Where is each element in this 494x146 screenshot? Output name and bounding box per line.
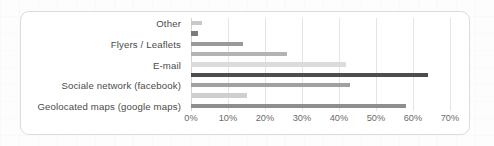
bar-row xyxy=(191,28,450,38)
bar-series xyxy=(191,18,450,111)
bar-row xyxy=(191,80,450,90)
y-axis-label-3: Sociale network (facebook) xyxy=(61,80,181,91)
y-axis-label-2: E-mail xyxy=(153,59,181,70)
bar xyxy=(191,31,198,36)
y-axis-label-0: Other xyxy=(156,18,181,29)
x-tick-label-10: 10% xyxy=(219,113,238,123)
bar xyxy=(191,93,247,98)
x-tick-label-20: 20% xyxy=(256,113,275,123)
x-tick-label-50: 50% xyxy=(367,113,386,123)
x-tick-label-70: 70% xyxy=(441,113,460,123)
bar-row xyxy=(191,59,450,69)
x-tick-label-30: 30% xyxy=(293,113,312,123)
plot-area xyxy=(191,18,450,111)
bar xyxy=(191,83,350,88)
bar-row xyxy=(191,70,450,80)
chart-card: OtherFlyers / LeafletsE-mailSociale netw… xyxy=(20,11,470,135)
y-axis-label-4: Geolocated maps (google maps) xyxy=(37,100,181,111)
y-axis-label-1: Flyers / Leaflets xyxy=(111,38,181,49)
bar xyxy=(191,21,202,26)
bar xyxy=(191,52,287,57)
bar-row xyxy=(191,101,450,111)
bar-row xyxy=(191,49,450,59)
bar-row xyxy=(191,90,450,100)
bar xyxy=(191,104,406,109)
x-tick-label-0: 0% xyxy=(184,113,197,123)
page-root: OtherFlyers / LeafletsE-mailSociale netw… xyxy=(0,0,494,146)
bar xyxy=(191,62,346,67)
gridline-70 xyxy=(450,18,451,111)
bar xyxy=(191,42,243,47)
bar-row xyxy=(191,18,450,28)
x-axis-tick-labels: 0%10%20%30%40%50%60%70% xyxy=(191,113,450,129)
y-axis-category-labels: OtherFlyers / LeafletsE-mailSociale netw… xyxy=(21,18,187,111)
x-tick-label-40: 40% xyxy=(330,113,349,123)
bar-row xyxy=(191,39,450,49)
bar xyxy=(191,73,428,78)
x-tick-label-60: 60% xyxy=(404,113,423,123)
